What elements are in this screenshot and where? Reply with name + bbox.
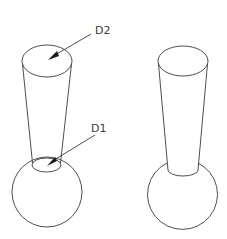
technical-drawing: D2 D1 <box>0 0 227 239</box>
d2-label: D2 <box>95 24 110 37</box>
left-bottom-ellipse <box>32 158 61 172</box>
right-taper-right-edge <box>198 64 208 170</box>
right-top-ellipse <box>158 46 208 76</box>
d1-leader-line <box>54 135 95 160</box>
right-taper-left-edge <box>159 64 169 170</box>
d2-leader-line <box>55 34 91 55</box>
right-sphere <box>148 163 218 229</box>
left-taper-left-edge <box>23 64 33 163</box>
right-neck-base-curve <box>168 170 198 176</box>
left-taper-right-edge <box>61 64 72 163</box>
left-sphere <box>12 157 82 227</box>
d1-label: D1 <box>91 122 106 135</box>
left-figure: D2 D1 <box>12 24 110 227</box>
right-figure <box>148 46 218 229</box>
d2-arrowhead-icon <box>48 51 59 60</box>
